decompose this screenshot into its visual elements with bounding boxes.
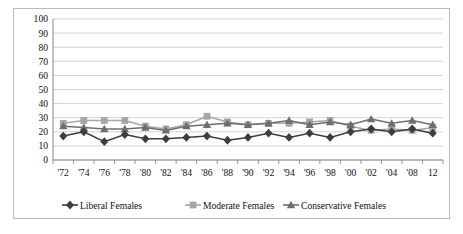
chart-figure: 0102030405060708090100'72'74'76'78'80'82… bbox=[13, 8, 450, 219]
x-axis-label-9: '90 bbox=[242, 167, 254, 178]
plot-wrapper: 0102030405060708090100'72'74'76'78'80'82… bbox=[14, 9, 451, 220]
data-point-0-11 bbox=[285, 133, 293, 142]
y-axis-tick-60: 60 bbox=[38, 70, 48, 81]
x-axis-label-1: '74 bbox=[78, 167, 90, 178]
y-axis-tick-0: 0 bbox=[43, 154, 48, 165]
legend-label-2: Conservative Females bbox=[301, 200, 386, 211]
x-axis-label-0: '72 bbox=[58, 167, 70, 178]
data-point-0-13 bbox=[326, 133, 334, 142]
x-axis-label-4: '80 bbox=[140, 167, 152, 178]
x-axis-label-14: '00 bbox=[345, 167, 357, 178]
data-point-0-8 bbox=[223, 136, 231, 145]
y-axis-tick-10: 10 bbox=[38, 140, 48, 151]
x-axis-label-6: '84 bbox=[181, 167, 193, 178]
data-point-1-1 bbox=[80, 117, 87, 124]
y-axis-tick-80: 80 bbox=[38, 42, 48, 53]
x-axis-label-10: '92 bbox=[263, 167, 275, 178]
data-point-0-2 bbox=[100, 137, 108, 146]
data-point-0-4 bbox=[141, 134, 149, 143]
x-axis-label-2: '76 bbox=[99, 167, 111, 178]
x-axis-label-15: '02 bbox=[365, 167, 377, 178]
data-point-0-5 bbox=[162, 134, 170, 143]
data-point-0-0 bbox=[59, 132, 67, 141]
x-axis-label-7: '86 bbox=[201, 167, 213, 178]
legend-label-0: Liberal Females bbox=[80, 200, 142, 211]
data-point-1-3 bbox=[121, 117, 128, 124]
data-point-1-7 bbox=[204, 113, 211, 120]
data-point-0-7 bbox=[203, 132, 211, 141]
x-axis-label-12: '96 bbox=[304, 167, 316, 178]
data-point-0-12 bbox=[306, 129, 314, 138]
y-axis-tick-50: 50 bbox=[38, 84, 48, 95]
x-axis-label-18: 12 bbox=[428, 167, 438, 178]
data-point-2-15 bbox=[367, 115, 375, 122]
data-point-0-6 bbox=[182, 133, 190, 142]
legend-diamond-marker-icon bbox=[66, 201, 74, 210]
x-axis-label-11: '94 bbox=[283, 167, 295, 178]
x-axis-group: '72'74'76'78'80'82'84'86'88'90'92'94'96'… bbox=[53, 160, 443, 178]
x-axis-label-13: '98 bbox=[324, 167, 336, 178]
x-axis-label-5: '82 bbox=[160, 167, 172, 178]
gridlines-group: 0102030405060708090100 bbox=[34, 13, 443, 165]
data-point-1-2 bbox=[101, 117, 108, 124]
legend-square-marker-icon bbox=[190, 202, 197, 209]
y-axis-tick-70: 70 bbox=[38, 56, 48, 67]
x-axis-label-17: '08 bbox=[407, 167, 419, 178]
y-axis-tick-40: 40 bbox=[38, 98, 48, 109]
legend-label-1: Moderate Females bbox=[203, 200, 274, 211]
x-axis-label-3: '78 bbox=[119, 167, 131, 178]
line-chart: 0102030405060708090100'72'74'76'78'80'82… bbox=[14, 9, 451, 220]
y-axis-tick-90: 90 bbox=[38, 28, 48, 39]
y-axis-tick-20: 20 bbox=[38, 126, 48, 137]
data-point-0-9 bbox=[244, 133, 252, 142]
y-axis-tick-30: 30 bbox=[38, 112, 48, 123]
x-axis-label-16: '04 bbox=[386, 167, 398, 178]
y-axis-tick-100: 100 bbox=[34, 13, 49, 24]
x-axis-label-8: '88 bbox=[222, 167, 234, 178]
chart-legend: Liberal FemalesModerate FemalesConservat… bbox=[62, 200, 386, 211]
data-point-0-10 bbox=[265, 129, 273, 138]
